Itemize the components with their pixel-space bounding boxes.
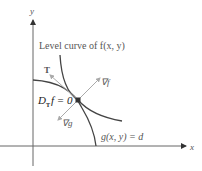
grad-g-label: ∇g [62,118,73,128]
x-axis-label: x [189,142,194,152]
svg-text:f = 0: f = 0 [51,94,73,106]
level-curve-label: Level curve of f(x, y) [39,40,125,52]
grad-f-vector [78,78,100,100]
svg-text:T: T [46,102,50,108]
level-curve [60,55,122,121]
tangency-point [76,98,81,103]
directional-derivative-label: D T f = 0 [37,94,73,108]
constraint-label: g(x, y) = d [101,131,144,143]
lagrange-diagram: y x Level curve of f(x, y) T ∇f ∇g D T f… [0,0,202,171]
svg-text:D: D [37,94,46,106]
y-axis-label: y [29,6,34,16]
grad-f-label: ∇f [101,77,111,87]
tangent-label: T [44,65,50,75]
